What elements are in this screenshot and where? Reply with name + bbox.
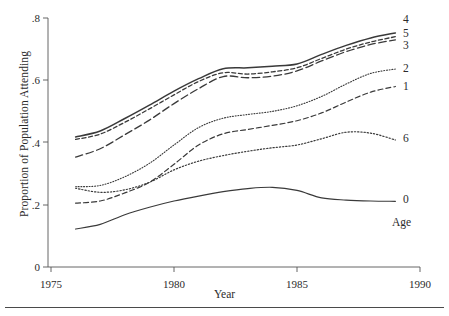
plot-canvas [0,0,449,316]
series-label-0: 0 [403,193,423,205]
y-tick-label-0p8: .8 [14,12,40,24]
series-line-2 [76,69,396,187]
y-tick-label-0p4: .4 [14,137,40,149]
axis-lines [43,18,420,272]
y-tick-label-0: 0 [14,261,40,273]
series-label-2: 2 [403,62,423,74]
y-axis-title: Proportion of Population Attending [18,24,30,244]
series-label-3: 3 [403,39,423,51]
series-line-1 [76,86,396,203]
bottom-rule [5,307,444,308]
x-tick-label-1980: 1980 [152,278,196,290]
series-label-1: 1 [403,80,423,92]
series-line-6 [76,132,396,193]
y-tick-label-0p6: .6 [14,74,40,86]
y-tick-label-0p2: .2 [14,199,40,211]
legend-title-age: Age [392,216,428,228]
chart-figure: Proportion of Population Attending Year … [0,0,449,316]
x-tick-label-1985: 1985 [275,278,319,290]
series-label-5: 5 [403,27,423,39]
series-group [76,33,396,229]
x-tick-label-1975: 1975 [29,278,73,290]
series-label-4: 4 [403,13,423,25]
series-line-5 [76,37,396,140]
series-line-3 [76,40,396,157]
series-label-6: 6 [403,132,423,144]
x-tick-label-1990: 1990 [398,278,442,290]
